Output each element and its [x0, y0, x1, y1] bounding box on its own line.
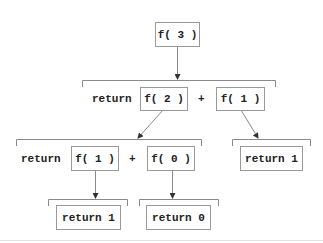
call-box-f3: f( 3 ): [155, 22, 200, 47]
call-box-f2: f( 2 ): [140, 87, 188, 111]
return-box-f1-result: return 1: [240, 146, 303, 171]
bottom-divider: [0, 240, 323, 241]
plus-operator-level1: +: [198, 94, 205, 105]
plus-operator-level2: +: [129, 154, 136, 165]
return-keyword-level2: return: [21, 154, 61, 165]
recursion-tree-diagram: f( 3 ) return f( 2 ) + f( 1 ) return f( …: [0, 0, 323, 243]
call-box-f1: f( 1 ): [216, 87, 265, 111]
arrow-f2-to-level2: [138, 110, 163, 138]
call-box-f0: f( 0 ): [147, 146, 195, 171]
return-box-f0-result: return 0: [146, 205, 211, 230]
arrow-f1-to-return1: [241, 110, 258, 138]
return-box-f1-nested-result: return 1: [56, 205, 121, 230]
return-keyword-level1: return: [92, 94, 132, 105]
call-box-f1-nested: f( 1 ): [71, 146, 119, 171]
